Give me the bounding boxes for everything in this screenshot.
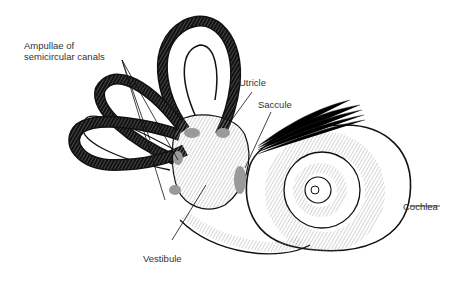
label-ampullae: Ampullae of semicircular canals bbox=[24, 40, 105, 62]
label-ampullae-line1: Ampullae of bbox=[24, 40, 105, 51]
label-saccule: Saccule bbox=[258, 99, 292, 110]
inner-ear-diagram: Ampullae of semicircular canals Utricle … bbox=[0, 0, 464, 284]
vestibule-body bbox=[172, 115, 249, 209]
label-cochlea: Cochlea bbox=[403, 201, 438, 212]
label-vestibule: Vestibule bbox=[143, 253, 182, 264]
label-ampullae-line2: semicircular canals bbox=[24, 51, 105, 62]
label-utricle: Utricle bbox=[239, 77, 266, 88]
